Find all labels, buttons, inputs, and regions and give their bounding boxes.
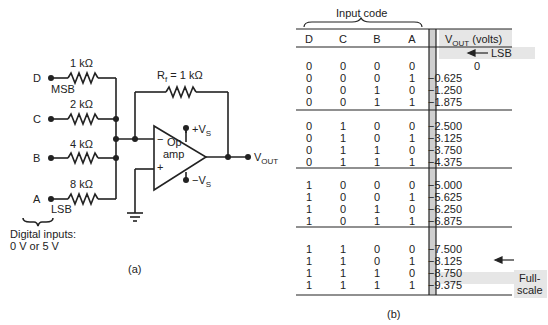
table-cell: 1 (299, 267, 319, 279)
vout-cell: −8.750 (402, 267, 462, 279)
table-cell: 1 (299, 243, 319, 255)
pos-supply-sub: S (206, 129, 211, 138)
vout-cell: −1.250 (402, 84, 462, 96)
table-cell: 0 (367, 132, 387, 144)
table-cell: 1 (367, 96, 387, 108)
input-code-group-label: Input code (336, 7, 387, 19)
table-cell: 1 (367, 84, 387, 96)
table-cell: 0 (333, 179, 353, 191)
table-cell: 0 (333, 203, 353, 215)
table-cell: 0 (367, 120, 387, 132)
table-cell: 1 (367, 144, 387, 156)
circuit-diagram: D C B A 1 kΩ 2 kΩ 4 kΩ 8 kΩ MSB LSB Rf =… (0, 0, 290, 325)
vout-sub: OUT (261, 157, 278, 166)
circuit-wiring (0, 0, 290, 325)
input-c-label: C (33, 113, 41, 125)
msb-label: MSB (51, 83, 75, 95)
lsb-annotation: LSB (491, 47, 512, 59)
rf-symbol: R (157, 69, 165, 81)
table-cell: 0 (333, 96, 353, 108)
vout-cell: −5.625 (402, 191, 462, 203)
table-cell: 0 (333, 72, 353, 84)
table-cell: 0 (402, 60, 422, 72)
table-cell: 1 (333, 243, 353, 255)
table-cell: 1 (299, 179, 319, 191)
table-cell: 0 (299, 156, 319, 168)
input-d-label: D (33, 72, 41, 84)
table-cell: 1 (367, 267, 387, 279)
vout-cell: −6.250 (402, 203, 462, 215)
input-a-label: A (33, 193, 40, 205)
resistor-b-value: 4 kΩ (70, 138, 93, 150)
rf-value: = 1 kΩ (167, 69, 202, 81)
opamp-label-line1: Op (167, 136, 182, 148)
vout-header-unit: (volts) (469, 33, 502, 45)
fullscale-annotation-line2: scale (517, 284, 543, 296)
vout-cell: −1.875 (402, 96, 462, 108)
vout-cell: −9.375 (402, 279, 462, 291)
positive-supply-label: +VS (192, 123, 211, 140)
resistor-d-value: 1 kΩ (70, 57, 93, 69)
vout-cell: −3.125 (402, 132, 462, 144)
negative-supply-label: −VS (192, 174, 211, 191)
table-cell: 0 (333, 60, 353, 72)
table-cell: 0 (299, 144, 319, 156)
table-cell: 0 (367, 243, 387, 255)
fullscale-annotation-line1: Full- (519, 272, 540, 284)
table-cell: 0 (299, 96, 319, 108)
digital-inputs-note-line2: 0 V or 5 V (10, 240, 59, 252)
vout-cell: −8.125 (402, 255, 462, 267)
resistor-a-value: 8 kΩ (70, 178, 93, 190)
input-b-label: B (33, 152, 40, 164)
noninverting-input-sign: + (157, 161, 163, 173)
table-cell: 0 (333, 84, 353, 96)
table-cell: 1 (333, 120, 353, 132)
table-cell: 0 (367, 191, 387, 203)
table-cell: 1 (333, 156, 353, 168)
table-cell: 1 (299, 203, 319, 215)
table-cell: 1 (299, 191, 319, 203)
resistor-c-value: 2 kΩ (70, 98, 93, 110)
header-c: C (333, 33, 353, 45)
inverting-input-sign: − (157, 133, 163, 145)
vout-cell: −2.500 (402, 120, 462, 132)
table-cell: 0 (333, 191, 353, 203)
table-cell: 0 (367, 72, 387, 84)
table-cell: 0 (299, 72, 319, 84)
table-cell: 0 (367, 60, 387, 72)
pos-supply-text: +V (192, 123, 206, 135)
table-cell: 0 (367, 179, 387, 191)
header-a: A (402, 33, 422, 45)
vout-cell: −4.375 (402, 156, 462, 168)
table-cell: 0 (333, 215, 353, 227)
figure-a-caption: (a) (128, 263, 141, 275)
table-cell: 0 (299, 84, 319, 96)
lsb-label: LSB (51, 203, 72, 215)
table-cell: 0 (299, 60, 319, 72)
table-cell: 1 (333, 255, 353, 267)
vout-cell: 0 (447, 60, 507, 72)
vout-cell: −3.750 (402, 144, 462, 156)
feedback-resistor-label: Rf = 1 kΩ (157, 69, 203, 86)
table-cell: 0 (299, 132, 319, 144)
vout-header-sub: OUT (452, 39, 469, 48)
table-cell: 1 (367, 156, 387, 168)
vout-cell: −7.500 (402, 243, 462, 255)
table-cell: 1 (333, 267, 353, 279)
neg-supply-text: −V (192, 174, 206, 186)
table-cell: 1 (333, 144, 353, 156)
table-cell: 1 (333, 279, 353, 291)
digital-inputs-note-line1: Digital inputs: (10, 228, 76, 240)
table-cell: 1 (367, 203, 387, 215)
vout-cell: −6.875 (402, 215, 462, 227)
opamp-label-line2: amp (163, 148, 184, 160)
table-cell: 1 (333, 132, 353, 144)
table-cell: 1 (367, 215, 387, 227)
header-b: B (367, 33, 387, 45)
vout-cell: −0.625 (402, 72, 462, 84)
vout-cell: −5.000 (402, 179, 462, 191)
table-cell: 1 (299, 255, 319, 267)
table-cell: 0 (299, 120, 319, 132)
table-cell: 1 (299, 279, 319, 291)
table-cell: 0 (367, 255, 387, 267)
